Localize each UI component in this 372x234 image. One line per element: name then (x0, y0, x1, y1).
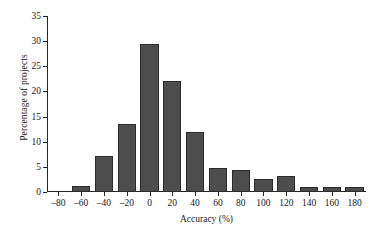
y-axis-tick-label: 0 (36, 187, 41, 197)
y-axis-tick-label: 35 (32, 11, 42, 21)
y-axis-tick (43, 91, 47, 92)
bar (186, 132, 204, 192)
y-axis-tick-label: 25 (32, 61, 42, 71)
x-axis-tick-label: 100 (256, 198, 270, 208)
x-axis-tick-label: 120 (279, 198, 293, 208)
y-axis-title: Percentage of projects (19, 18, 30, 178)
y-axis-tick (43, 117, 47, 118)
x-axis-tick-label: –60 (74, 198, 88, 208)
x-axis-tick (58, 192, 59, 196)
x-axis-tick (104, 192, 105, 196)
x-axis-title: Accuracy (%) (47, 214, 366, 224)
x-axis-tick (263, 192, 264, 196)
y-axis-tick (43, 142, 47, 143)
x-axis-tick (332, 192, 333, 196)
y-axis-tick (43, 41, 47, 42)
bar (118, 124, 136, 192)
bar (72, 186, 90, 192)
bar (345, 187, 363, 192)
x-axis-tick (172, 192, 173, 196)
y-axis-tick-label: 10 (32, 137, 42, 147)
plot-area: 05101520253035 –80–60–40–200204060801001… (47, 16, 366, 192)
y-axis-tick (43, 66, 47, 67)
bar (232, 170, 250, 192)
x-axis-tick-label: –40 (97, 198, 111, 208)
y-axis-tick-label: 20 (32, 86, 42, 96)
x-axis-tick-label: 60 (213, 198, 223, 208)
x-axis-tick (81, 192, 82, 196)
bar (254, 179, 272, 192)
x-axis-tick (309, 192, 310, 196)
bar-chart: Percentage of projects 05101520253035 –8… (0, 0, 372, 234)
x-axis-tick-label: –80 (51, 198, 65, 208)
x-axis-tick-label: 80 (236, 198, 246, 208)
bar (277, 176, 295, 192)
x-axis-tick-label: 160 (325, 198, 339, 208)
x-axis-tick-label: 140 (302, 198, 316, 208)
y-axis-tick-label: 30 (32, 36, 42, 46)
x-axis-tick (286, 192, 287, 196)
bar (95, 156, 113, 192)
x-axis-tick-label: –20 (120, 198, 134, 208)
x-axis-tick (355, 192, 356, 196)
x-axis-tick (195, 192, 196, 196)
x-axis-tick-label: 180 (347, 198, 361, 208)
y-axis-tick (43, 167, 47, 168)
bar (163, 81, 181, 192)
x-axis-tick-label: 0 (147, 198, 152, 208)
bar (209, 168, 227, 192)
y-axis-tick-label: 5 (36, 162, 41, 172)
y-axis-tick (43, 192, 47, 193)
bar (300, 187, 318, 192)
x-axis-tick-label: 20 (168, 198, 178, 208)
x-axis-tick (218, 192, 219, 196)
x-axis-tick-label: 40 (190, 198, 200, 208)
y-axis-line (47, 16, 48, 192)
x-axis-tick (127, 192, 128, 196)
y-axis-tick-label: 15 (32, 112, 42, 122)
x-axis-tick (150, 192, 151, 196)
y-axis-tick (43, 16, 47, 17)
x-axis-tick (241, 192, 242, 196)
bar (140, 44, 158, 192)
bar (323, 187, 341, 192)
